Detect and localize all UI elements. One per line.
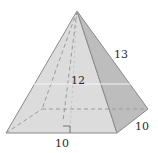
base-front-label: 10 [55, 138, 69, 149]
slant-edge-label: 13 [114, 49, 128, 60]
height-label: 12 [71, 75, 85, 86]
base-side-label: 10 [135, 121, 149, 132]
